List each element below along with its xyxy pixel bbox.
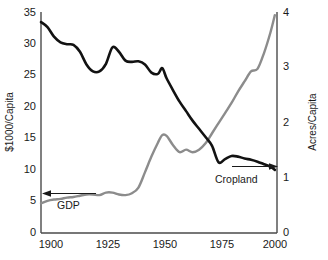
- x-tick-1925: 1925: [96, 238, 120, 250]
- x-tick-1975: 1975: [210, 238, 234, 250]
- left-tick-25: 25: [24, 68, 36, 80]
- left-tick-30: 30: [24, 37, 36, 49]
- right-tick-4: 4: [283, 6, 289, 18]
- cropland-series-label: Cropland: [215, 173, 258, 185]
- x-tick-1950: 1950: [153, 238, 177, 250]
- gdp-series-label: GDP: [57, 199, 80, 211]
- x-tick-1900: 1900: [39, 238, 63, 250]
- left-axis-title: $1000/Capita: [4, 92, 15, 152]
- chart-container: 0 5 10 15 20 25 30 35 0 1 2 3 4 1900 192…: [0, 0, 328, 260]
- left-tick-20: 20: [24, 100, 36, 112]
- left-tick-5: 5: [30, 194, 36, 206]
- left-axis-ticks: 0 5 10 15 20 25 30 35: [24, 6, 36, 239]
- x-tick-2000: 2000: [263, 238, 287, 250]
- right-tick-1: 1: [283, 171, 289, 183]
- left-tick-15: 15: [24, 131, 36, 143]
- cropland-annotation: Cropland: [215, 163, 278, 185]
- right-tick-3: 3: [283, 60, 289, 72]
- left-tick-35: 35: [24, 6, 36, 18]
- gdp-arrow-head-icon: [42, 190, 51, 196]
- chart-plot: 0 5 10 15 20 25 30 35 0 1 2 3 4 1900 192…: [0, 0, 328, 260]
- left-tick-10: 10: [24, 163, 36, 175]
- series-line-cropland: [41, 22, 275, 170]
- x-axis-ticks: 1900 1925 1950 1975 2000: [39, 238, 287, 250]
- right-tick-0: 0: [283, 226, 289, 238]
- left-tick-0: 0: [30, 226, 36, 238]
- right-axis-title: Acres/Capita: [307, 93, 318, 151]
- right-tick-2: 2: [283, 116, 289, 128]
- right-axis-ticks: 0 1 2 3 4: [283, 6, 289, 239]
